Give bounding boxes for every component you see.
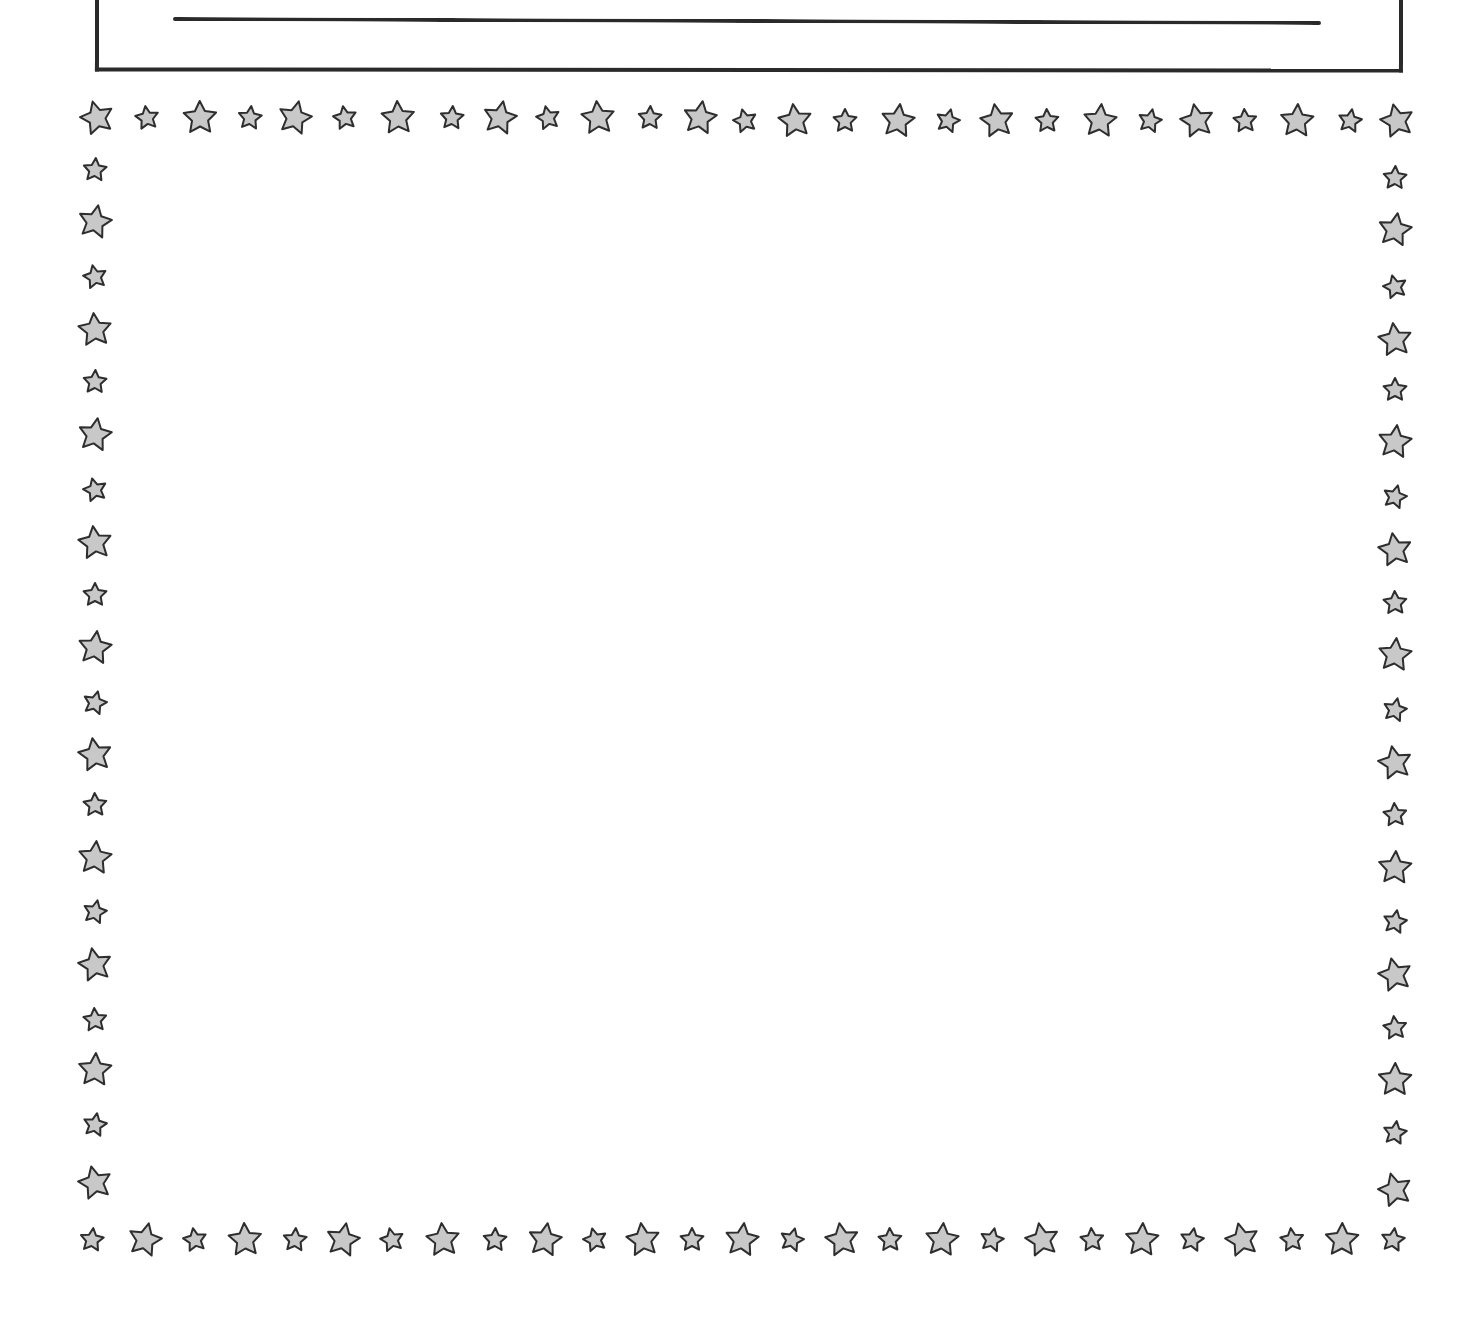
star-icon bbox=[85, 900, 107, 923]
star-icon bbox=[382, 101, 414, 132]
star-icon bbox=[84, 158, 107, 180]
star-icon bbox=[328, 1223, 360, 1255]
star-icon bbox=[84, 583, 107, 605]
star-icon bbox=[485, 101, 517, 133]
star-icon bbox=[1281, 104, 1313, 135]
star-icon bbox=[80, 205, 112, 237]
star-icon bbox=[1379, 851, 1411, 882]
star-icon bbox=[639, 106, 662, 128]
star-icon bbox=[1140, 109, 1162, 132]
star-icon bbox=[536, 106, 558, 129]
star-icon bbox=[1378, 746, 1410, 778]
star-icon bbox=[1378, 1174, 1409, 1206]
star-icon bbox=[78, 948, 110, 980]
star-icon bbox=[1378, 323, 1410, 355]
star-icon bbox=[727, 1223, 759, 1255]
star-icon bbox=[581, 101, 613, 133]
star-icon bbox=[80, 418, 112, 450]
star-icon bbox=[834, 109, 857, 131]
star-icon bbox=[1382, 1228, 1405, 1251]
star-icon bbox=[778, 104, 810, 136]
star-icon bbox=[782, 1228, 804, 1251]
star-icon bbox=[1036, 109, 1059, 131]
star-icon bbox=[441, 106, 464, 128]
star-icon bbox=[81, 1228, 104, 1250]
star-icon bbox=[84, 793, 107, 815]
star-icon bbox=[83, 265, 105, 288]
star-icon bbox=[1385, 698, 1407, 721]
star-icon bbox=[879, 1228, 902, 1250]
star-icon bbox=[1181, 1228, 1204, 1251]
star-icon bbox=[1378, 533, 1410, 565]
star-icon bbox=[938, 109, 960, 132]
star-icon bbox=[80, 631, 112, 663]
star-icon bbox=[980, 104, 1012, 136]
star-icon bbox=[1380, 425, 1412, 457]
star-icon bbox=[239, 106, 262, 128]
star-icon bbox=[79, 1053, 111, 1084]
star-icon bbox=[626, 1223, 658, 1255]
star-icon bbox=[1384, 166, 1407, 188]
star-border bbox=[0, 0, 1475, 1324]
star-icon bbox=[1379, 1063, 1411, 1094]
star-icon bbox=[78, 738, 110, 770]
star-icon bbox=[1084, 104, 1116, 136]
star-icon bbox=[1378, 958, 1410, 990]
star-icon bbox=[685, 101, 717, 133]
star-icon bbox=[926, 1223, 958, 1255]
star-icon bbox=[733, 109, 755, 132]
star-icon bbox=[484, 1228, 507, 1250]
star-icon bbox=[78, 313, 110, 345]
star-icon bbox=[85, 691, 107, 714]
star-icon bbox=[825, 1223, 857, 1255]
star-icon bbox=[883, 104, 915, 136]
star-icon bbox=[229, 1223, 261, 1254]
star-icon bbox=[426, 1223, 458, 1255]
star-icon bbox=[1384, 1121, 1407, 1144]
star-icon bbox=[80, 102, 111, 134]
star-icon bbox=[583, 1228, 605, 1251]
star-icon bbox=[135, 106, 158, 129]
star-icon bbox=[1384, 591, 1407, 613]
star-icon bbox=[1339, 109, 1362, 132]
star-icon bbox=[1380, 213, 1412, 245]
star-icon bbox=[184, 101, 216, 132]
star-icon bbox=[1380, 104, 1412, 136]
star-icon bbox=[284, 1228, 307, 1250]
star-icon bbox=[1383, 1016, 1406, 1038]
star-icon bbox=[78, 526, 110, 558]
star-icon bbox=[83, 1008, 106, 1030]
star-icon bbox=[78, 1166, 110, 1198]
star-icon bbox=[1384, 378, 1407, 400]
star-icon bbox=[84, 1113, 107, 1136]
star-icon bbox=[1379, 638, 1411, 670]
star-icon bbox=[130, 1223, 162, 1255]
star-icon bbox=[1280, 1228, 1303, 1250]
star-icon bbox=[380, 1228, 402, 1251]
star-icon bbox=[1326, 1223, 1358, 1254]
star-icon bbox=[83, 478, 105, 501]
star-icon bbox=[1180, 104, 1212, 136]
star-icon bbox=[1383, 275, 1405, 298]
star-icon bbox=[1385, 485, 1407, 508]
star-icon bbox=[333, 106, 356, 129]
star-icon bbox=[183, 1228, 206, 1251]
star-icon bbox=[1384, 910, 1407, 933]
star-icon bbox=[681, 1228, 704, 1250]
star-icon bbox=[280, 101, 312, 133]
star-icon bbox=[84, 370, 107, 392]
star-icon bbox=[982, 1228, 1004, 1251]
star-icon bbox=[1126, 1223, 1158, 1254]
star-icon bbox=[530, 1223, 562, 1255]
star-icon bbox=[1233, 109, 1256, 131]
star-icon bbox=[1225, 1223, 1257, 1255]
star-icon bbox=[1080, 1228, 1103, 1250]
star-icon bbox=[1025, 1223, 1057, 1255]
star-icon bbox=[1383, 803, 1406, 825]
star-icon bbox=[79, 841, 111, 873]
